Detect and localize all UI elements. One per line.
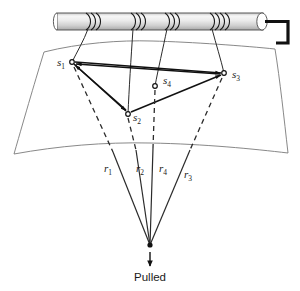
surface-right-edge xyxy=(275,49,288,153)
coil-rod-assembly xyxy=(53,13,288,43)
pulled-caption: Pulled xyxy=(134,271,166,283)
ray-r4-dashed xyxy=(153,90,155,148)
mesh-edge-s2-s1 xyxy=(75,65,126,110)
ray-r3-solid xyxy=(150,150,190,245)
lead-wire-s3 xyxy=(212,29,224,73)
sensor-node-s3[interactable] xyxy=(222,71,227,76)
rod-left-cap xyxy=(53,13,57,30)
ray-r1-solid xyxy=(113,152,150,245)
label-r1: r1 xyxy=(104,162,112,177)
terminal-lead-wire xyxy=(265,22,288,44)
mesh-edge-s2-s3 xyxy=(131,75,221,112)
surface-top-edge xyxy=(44,41,275,52)
label-s1: s1 xyxy=(57,56,65,71)
diagram-svg: s1 s2 s3 s4 r1 r2 r4 r3 Pulled xyxy=(0,0,300,291)
surface-bottom-edge xyxy=(14,143,288,154)
surface-left-edge xyxy=(14,52,44,154)
label-s4: s4 xyxy=(163,74,171,89)
ray-r3-dashed xyxy=(190,78,222,150)
label-s2: s2 xyxy=(133,111,141,126)
ray-r4-solid xyxy=(150,148,153,245)
rod-body xyxy=(57,13,263,30)
sensor-node-s4[interactable] xyxy=(153,84,158,89)
mesh-edge-s1-s3 xyxy=(75,62,221,73)
pull-point-marker xyxy=(147,242,152,247)
ray-labels: r1 r2 r4 r3 xyxy=(104,162,192,183)
label-r4: r4 xyxy=(159,162,167,177)
diagram-canvas: s1 s2 s3 s4 r1 r2 r4 r3 Pulled xyxy=(0,0,300,291)
label-s3: s3 xyxy=(232,68,240,83)
membrane-surface xyxy=(14,41,288,154)
pull-indicator xyxy=(147,242,152,266)
mesh-edge-s3-s1 xyxy=(76,64,220,74)
label-r3: r3 xyxy=(184,168,192,183)
range-rays xyxy=(74,67,222,245)
lead-wire-s2 xyxy=(128,29,133,114)
node-labels: s1 s2 s3 s4 xyxy=(57,56,240,126)
sensor-node-s1[interactable] xyxy=(70,60,75,65)
sensor-mesh xyxy=(74,62,221,112)
sensor-node-s2[interactable] xyxy=(126,112,131,117)
ray-r1-dashed xyxy=(74,67,113,152)
label-r2: r2 xyxy=(136,162,144,177)
